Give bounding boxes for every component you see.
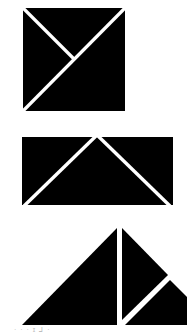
rectangle-body (22, 137, 173, 205)
large-triangle-shape (22, 228, 187, 325)
large-triangle-left-piece (22, 228, 117, 325)
square-shape (23, 8, 125, 111)
rectangle-shape (22, 135, 173, 206)
tangram-figure (0, 0, 187, 336)
figure-caption: · · · ɪ ⅃ · (14, 326, 51, 334)
